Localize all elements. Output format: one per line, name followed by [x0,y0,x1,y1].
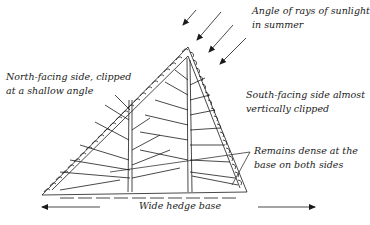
south-label-line1: South-facing side almost [246,88,365,102]
hedge-base-label: Wide hedge base [120,200,240,211]
north-side-label: North-facing side, clipped at a shallow … [6,70,131,98]
south-label-line2: vertically clipped [246,102,365,116]
south-side-label: South-facing side almost vertically clip… [246,88,365,116]
dense-label-line1: Remains dense at the [254,144,358,158]
dense-base-label: Remains dense at the base on both sides [254,144,358,172]
sunlight-arrows-icon [183,10,246,64]
sunlight-angle-label: Angle of rays of sunlight in summer [252,4,370,32]
sunlight-label-line1: Angle of rays of sunlight [252,4,370,18]
dense-label-line2: base on both sides [254,158,358,172]
sunlight-label-line2: in summer [252,18,370,32]
dense-base-leader-lines [110,152,250,185]
north-label-line2: at a shallow angle [6,84,131,98]
north-label-line1: North-facing side, clipped [6,70,131,84]
